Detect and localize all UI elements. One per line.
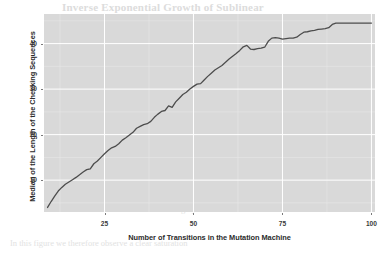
- y-tick-label: 10: [15, 176, 37, 183]
- x-tick-mark: [193, 213, 194, 215]
- plot-panel: [44, 14, 375, 212]
- y-tick-mark: [41, 180, 43, 181]
- x-tick-mark: [371, 213, 372, 215]
- y-tick-label: 20: [15, 131, 37, 138]
- x-tick-label: 25: [93, 220, 117, 227]
- line-chart-figure: Median of the Length of the Checking Seq…: [0, 0, 389, 257]
- y-tick-mark: [41, 44, 43, 45]
- x-tick-label: 50: [181, 220, 205, 227]
- x-tick-label: 75: [270, 220, 294, 227]
- plot-canvas: [44, 14, 375, 212]
- x-tick-label: 100: [359, 220, 383, 227]
- y-tick-label: 30: [15, 85, 37, 92]
- x-tick-mark: [282, 213, 283, 215]
- y-tick-label: 40: [15, 40, 37, 47]
- y-tick-mark: [41, 89, 43, 90]
- major-gridlines: [44, 14, 375, 212]
- y-tick-mark: [41, 135, 43, 136]
- x-axis-title: Number of Transitions in the Mutation Ma…: [44, 233, 375, 242]
- x-tick-mark: [105, 213, 106, 215]
